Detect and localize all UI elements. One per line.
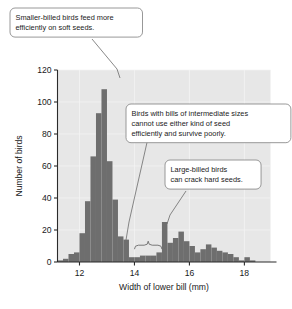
y-tick-label: 20 [42,225,52,235]
histogram-bar [206,244,211,262]
histogram-bar [189,246,194,262]
y-tick-label: 100 [37,97,52,107]
x-tick-label: 16 [185,268,195,278]
y-tick-label: 120 [37,65,52,75]
callout-line: efficiently and survive poorly. [132,129,226,138]
histogram-bar [68,254,73,262]
histogram-bar [90,156,95,262]
histogram-bar [184,241,189,262]
histogram-bar [167,243,172,262]
histogram-bar [107,161,112,262]
histogram-bar [79,233,84,262]
histogram-bar [151,256,156,262]
callout-line: Birds with bills of intermediate sizes [132,109,249,118]
x-tick-label: 18 [240,268,250,278]
x-tick-label: 12 [75,268,85,278]
y-tick-label: 0 [47,257,52,267]
y-tick-label: 60 [42,161,52,171]
histogram-bar [85,201,90,262]
histogram-bar [162,222,167,262]
histogram-bar [112,200,117,262]
histogram-bar [228,254,233,262]
callout-line: efficiently on soft seeds. [16,23,95,32]
histogram-bar [129,257,134,262]
histogram-bar [173,238,178,262]
histogram-bar [195,252,200,262]
callout-line: Smaller-billed birds feed more [16,13,114,22]
histogram-bar [244,257,249,262]
y-tick-label: 40 [42,193,52,203]
histogram-bar [118,236,123,262]
x-axis-label: Width of lower bill (mm) [119,282,209,292]
histogram-bar [96,113,101,262]
histogram-bar [178,232,183,262]
histogram-bar [200,249,205,262]
callout-line: Large-billed birds [171,165,228,174]
x-tick-label: 14 [130,268,140,278]
histogram-bar [145,256,150,262]
histogram-bar [134,257,139,262]
callout-line: can crack hard seeds. [171,175,243,184]
histogram-bar [233,257,238,262]
histogram-bar [217,251,222,262]
histogram-figure: 02040608010012012141618Width of lower bi… [0,0,292,309]
histogram-bar [156,252,161,262]
bill-width-histogram: 02040608010012012141618Width of lower bi… [0,0,292,309]
histogram-bar [74,252,79,262]
histogram-bar [123,240,128,262]
callout-line: cannot use either kind of seed [132,119,231,128]
y-tick-label: 80 [42,129,52,139]
histogram-bar [222,252,227,262]
histogram-bar [101,89,106,262]
histogram-bar [140,256,145,262]
histogram-bar [211,248,216,262]
y-axis-label: Number of birds [14,135,24,196]
